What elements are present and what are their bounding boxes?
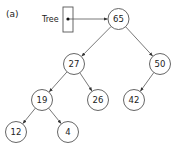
node-value: 65 [113, 14, 124, 24]
node-value: 42 [129, 95, 140, 105]
edge-65-to-50 [126, 27, 153, 56]
node-value: 4 [65, 127, 70, 137]
edge-27-to-26 [80, 73, 92, 91]
tree-node-26: 26 [88, 90, 109, 111]
node-value: 19 [37, 95, 48, 105]
binary-tree-diagram: (a) Tree 652750192642124 [0, 0, 173, 154]
tree-node-42: 42 [124, 90, 145, 111]
tree-node-65: 65 [108, 9, 129, 30]
node-value: 26 [93, 95, 104, 105]
tree-nodes: 652750192642124 [6, 9, 171, 143]
edge-27-to-19 [49, 72, 67, 92]
edge-19-to-12 [23, 108, 35, 123]
edge-50-to-42 [140, 73, 153, 92]
node-value: 27 [69, 59, 80, 69]
edge-19-to-4 [49, 108, 61, 123]
node-value: 50 [155, 59, 166, 69]
tree-node-19: 19 [32, 90, 53, 111]
edge-65-to-27 [82, 26, 111, 56]
tree-node-12: 12 [6, 122, 27, 143]
tree-node-27: 27 [64, 54, 85, 75]
panel-label: (a) [6, 9, 19, 19]
tree-pointer-label: Tree [41, 15, 59, 24]
tree-node-50: 50 [150, 54, 171, 75]
node-value: 12 [11, 127, 22, 137]
tree-node-4: 4 [58, 122, 79, 143]
